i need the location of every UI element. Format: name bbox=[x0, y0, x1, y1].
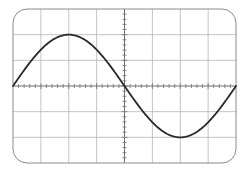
graticule-svg bbox=[0, 0, 243, 169]
oscilloscope-display bbox=[0, 0, 243, 169]
